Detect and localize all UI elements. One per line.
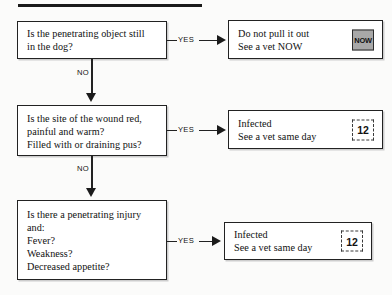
outcome-box-1[interactable]: Do not pull it out See a vet NOW NOW bbox=[228, 20, 383, 59]
no-connector-2-line bbox=[91, 156, 93, 189]
yes-connector-2-line-left bbox=[167, 130, 177, 132]
outcome-3-text: Infected See a vet same day bbox=[234, 228, 331, 254]
outcome-2-text: Infected See a vet same day bbox=[238, 116, 342, 142]
yes-connector-1-line-left bbox=[167, 40, 177, 42]
yes-connector-3-line-left bbox=[167, 241, 177, 243]
question-box-2[interactable]: Is the site of the wound red, painful an… bbox=[17, 105, 167, 156]
outcome-1-text: Do not pull it out See a vet NOW bbox=[238, 26, 342, 52]
no-label-1: NO bbox=[77, 68, 89, 77]
twelve-hour-badge-icon-2: 12 bbox=[341, 231, 363, 252]
yes-label-3: YES bbox=[178, 234, 194, 248]
question-2-text: Is the site of the wound red, painful an… bbox=[27, 111, 160, 150]
question-box-1[interactable]: Is the penetrating object still in the d… bbox=[17, 21, 167, 59]
yes-connector-2: YES bbox=[167, 123, 228, 137]
question-box-3[interactable]: Is there a penetrating injury and: Fever… bbox=[17, 200, 167, 280]
yes-connector-3-line-right bbox=[199, 241, 212, 243]
yes-arrowhead-3 bbox=[212, 236, 221, 246]
question-3-text: Is there a penetrating injury and: Fever… bbox=[27, 208, 160, 273]
yes-connector-1-line-right bbox=[199, 40, 217, 42]
yes-connector-3: YES bbox=[167, 234, 228, 248]
yes-connector-2-line-right bbox=[199, 130, 217, 132]
no-arrowhead-1 bbox=[86, 93, 96, 102]
twelve-hour-badge-icon-1: 12 bbox=[352, 119, 374, 140]
no-connector-1-line bbox=[91, 59, 93, 94]
no-connector-2: NO bbox=[72, 156, 112, 202]
yes-arrowhead-2 bbox=[217, 125, 226, 135]
yes-arrowhead-1 bbox=[217, 35, 226, 45]
yes-connector-1: YES bbox=[167, 33, 228, 47]
outcome-box-3[interactable]: Infected See a vet same day 12 bbox=[224, 222, 372, 260]
yes-label-1: YES bbox=[178, 33, 194, 47]
no-label-2: NO bbox=[77, 164, 89, 173]
now-badge-icon: NOW bbox=[352, 29, 374, 50]
no-arrowhead-2 bbox=[86, 188, 96, 197]
yes-label-2: YES bbox=[178, 123, 194, 137]
flowchart-page: Is the penetrating object still in the d… bbox=[0, 0, 392, 295]
question-1-text: Is the penetrating object still in the d… bbox=[27, 27, 160, 53]
no-connector-1: NO bbox=[72, 59, 112, 105]
outcome-box-2[interactable]: Infected See a vet same day 12 bbox=[228, 110, 383, 149]
top-divider-rule bbox=[18, 4, 202, 7]
